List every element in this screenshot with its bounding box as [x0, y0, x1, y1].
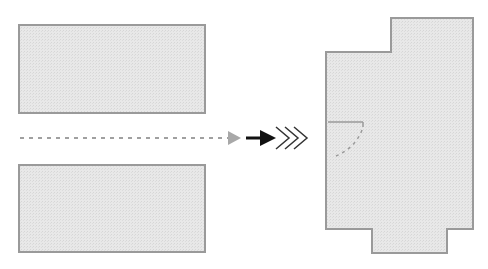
chevron-icon: [294, 127, 307, 149]
gray-arrowhead-icon: [228, 131, 241, 145]
chevron-icon: [285, 127, 298, 149]
merge-diagram: [0, 0, 488, 269]
chevron-icon: [276, 127, 289, 149]
chevrons-icon: [276, 127, 307, 149]
top-left-rectangle: [19, 25, 205, 113]
black-arrowhead-icon: [260, 130, 276, 146]
bottom-left-rectangle: [19, 165, 205, 252]
merged-shape: [326, 18, 473, 253]
